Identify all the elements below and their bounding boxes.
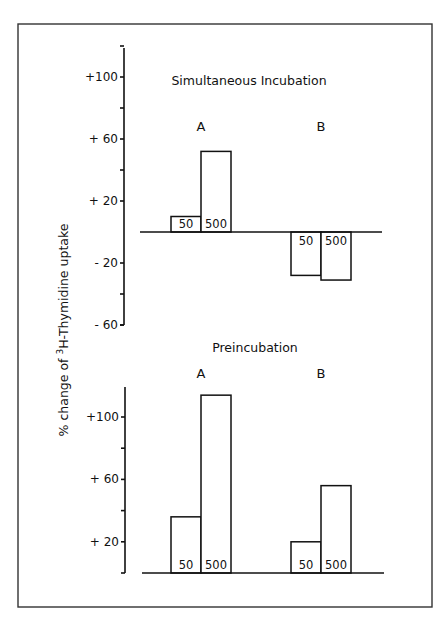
y-tick-label: + 60	[90, 472, 119, 486]
y-tick-label: +100	[85, 70, 118, 84]
bar-label: 500	[325, 558, 347, 572]
y-tick-label: - 60	[95, 318, 118, 332]
y-tick-label: + 60	[89, 132, 118, 146]
y-tick-label: - 20	[95, 256, 118, 270]
y-axis-label-suffix: H-Thymidine uptake	[56, 223, 71, 349]
group-label-B: B	[317, 366, 326, 381]
bar-label: 50	[179, 217, 194, 231]
panel-simultaneous-incubation: Simultaneous Incubation+100+ 60+ 20- 20-…	[85, 46, 382, 332]
figure: % change of 3H-Thymidine uptake Simultan…	[0, 0, 447, 628]
group-label-A: A	[197, 366, 206, 381]
group-label-B: B	[317, 119, 326, 134]
panel-preincubation: Preincubation+100+ 60+ 20A50500B50500	[86, 340, 384, 573]
y-axis-label: % change of 3H-Thymidine uptake	[55, 223, 71, 436]
y-axis-label-prefix: % change of	[56, 355, 71, 437]
group-label-A: A	[197, 119, 206, 134]
bar-A-500	[201, 395, 231, 573]
bar-label: 500	[325, 234, 347, 248]
y-tick-label: +100	[86, 410, 119, 424]
bar-label: 50	[179, 558, 194, 572]
bar-label: 50	[299, 234, 314, 248]
bar-label: 500	[205, 217, 227, 231]
bar-label: 500	[205, 558, 227, 572]
y-tick-label: + 20	[90, 535, 119, 549]
panel-title: Simultaneous Incubation	[171, 73, 326, 88]
bar-label: 50	[299, 558, 314, 572]
panel-title: Preincubation	[212, 340, 298, 355]
y-tick-label: + 20	[89, 194, 118, 208]
